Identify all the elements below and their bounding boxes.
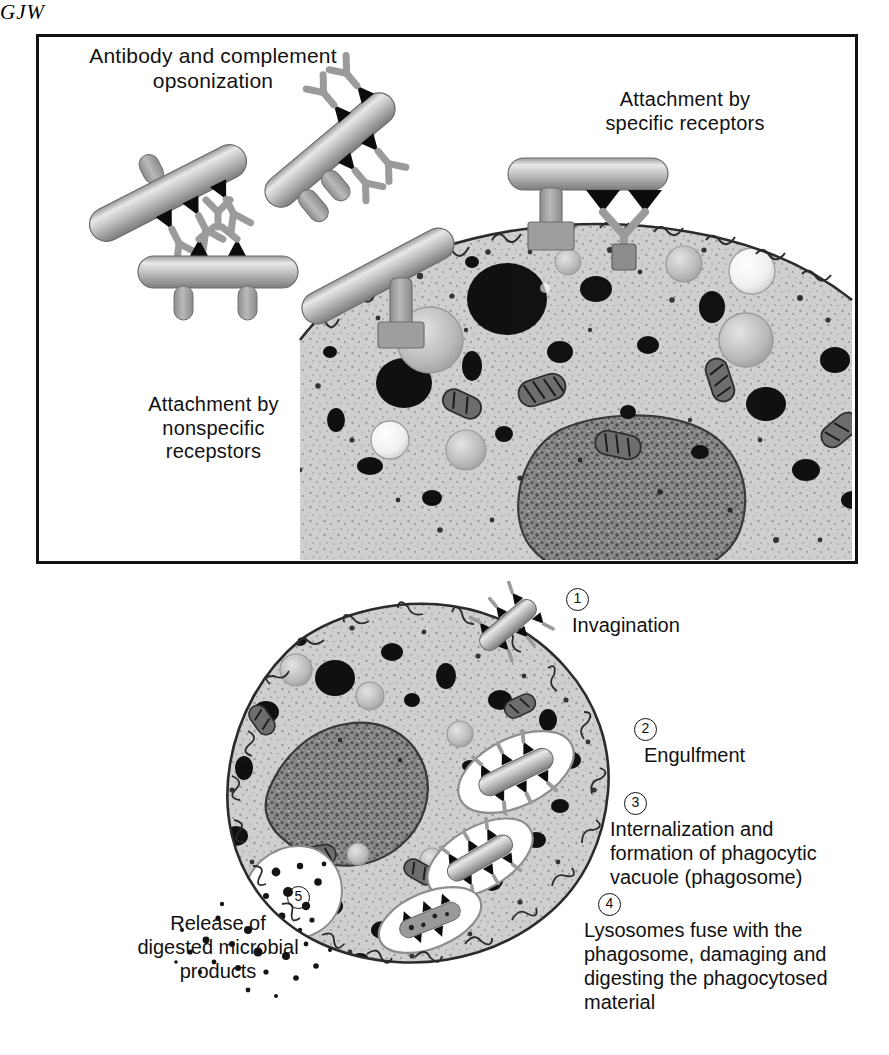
mitochondrion (245, 691, 538, 888)
step-label-2: Engulfment (644, 743, 745, 767)
step-number-2: 2 (634, 718, 657, 741)
phagocytic-vacuole-1 (445, 714, 586, 829)
step-number-3: 3 (624, 792, 647, 815)
step-number-1: 1 (566, 588, 589, 611)
invaginating-bacterium (461, 579, 554, 672)
step-2-engulfment: 2 Engulfment (634, 718, 745, 767)
step-label-1: Invagination (572, 613, 680, 637)
step-number-4: 4 (598, 893, 621, 916)
artist-signature: GJW (0, 0, 889, 25)
caption-opsonization: Antibody and complement opsonization (48, 44, 378, 94)
y-shaped-antibody (472, 729, 556, 816)
complement-triangle (398, 892, 461, 949)
lysosome-granule-pale (280, 654, 549, 872)
step-3-internalization: 3 Internalization and formation of phago… (624, 792, 860, 889)
phagocytosis-figure: Antibody and complement opsonization Att… (0, 0, 889, 1055)
rod-shaped-bacterium (476, 595, 541, 654)
step-number-5: 5 (287, 886, 310, 909)
phagocytic-vacuole-2 (414, 802, 545, 914)
step-1-invagination: 1 Invagination (566, 588, 680, 637)
complement-triangle (475, 737, 554, 808)
rod-shaped-bacterium (444, 831, 516, 884)
step-4-lysosome-fusion: 4 Lysosomes fuse with the phagosome, dam… (598, 893, 856, 1014)
rod-shaped-bacterium (475, 745, 557, 800)
complement-triangle (443, 824, 517, 892)
phagolysosome (369, 874, 490, 966)
step-label-4: Lysosomes fuse with the phagosome, damag… (584, 918, 856, 1014)
caption-specific-receptors: Attachment by specific receptors (560, 88, 810, 135)
step-label-5: Release of digested microbial products (120, 911, 316, 983)
complement-triangle (474, 587, 547, 659)
step-label-3: Internalization and formation of phagocy… (610, 817, 860, 889)
cell-nucleus (266, 723, 428, 866)
step-5-release: 5 Release of digested microbial products (120, 886, 316, 983)
y-shaped-antibody (469, 580, 553, 665)
degraded-bacterium (397, 900, 463, 941)
caption-nonspecific-receptors: Attachment by nonspecific recepstors (96, 393, 331, 464)
y-shaped-antibody (439, 817, 520, 900)
